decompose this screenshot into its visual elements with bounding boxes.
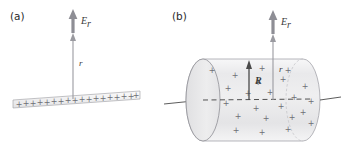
svg-text:+: + [263, 114, 270, 123]
panel-b-field-arrow [269, 10, 278, 34]
svg-text:+: + [259, 64, 266, 73]
svg-text:+: + [253, 104, 260, 113]
svg-text:+: + [44, 98, 51, 107]
svg-text:+: + [209, 66, 216, 75]
svg-text:+: + [289, 113, 296, 122]
svg-text:+: + [79, 95, 86, 104]
svg-text:+: + [58, 97, 65, 106]
svg-text:+: + [245, 89, 252, 98]
svg-text:+: + [259, 128, 266, 137]
line-charge-signs: + + + + + + + + + + + + + + + + + + [16, 91, 140, 108]
svg-text:+: + [93, 94, 100, 103]
figure-canvas: (a) + + + + + + + + + + + + + + + [0, 0, 341, 160]
panel-b: (b) + + + + + + + [164, 10, 341, 141]
svg-text:+: + [285, 125, 292, 134]
svg-text:+: + [223, 99, 230, 108]
panel-a-label: (a) [10, 10, 25, 22]
svg-text:+: + [308, 97, 315, 106]
svg-text:+: + [121, 92, 128, 101]
svg-text:+: + [278, 102, 285, 111]
panel-b-r-label: r [279, 64, 283, 74]
panel-a-field-arrow [69, 9, 78, 33]
svg-text:+: + [23, 99, 30, 108]
panel-b-R-label: R [254, 75, 262, 86]
svg-text:+: + [280, 75, 287, 84]
svg-text:+: + [16, 100, 23, 109]
cylinder-axis-right [320, 97, 341, 100]
svg-text:+: + [291, 93, 298, 102]
svg-text:+: + [51, 97, 58, 106]
physics-figure: (a) + + + + + + + + + + + + + + + [0, 0, 341, 160]
svg-text:+: + [308, 119, 315, 128]
svg-text:+: + [285, 66, 292, 75]
panel-b-label: (b) [172, 10, 187, 22]
panel-a-field-label: Er [80, 15, 91, 29]
svg-text:+: + [267, 88, 274, 97]
svg-text:+: + [302, 82, 309, 91]
svg-text:+: + [233, 126, 240, 135]
svg-text:+: + [30, 99, 37, 108]
svg-text:+: + [300, 108, 307, 117]
svg-text:+: + [225, 84, 232, 93]
svg-text:+: + [114, 93, 121, 102]
svg-text:+: + [65, 96, 72, 105]
svg-text:+: + [86, 95, 93, 104]
svg-text:+: + [232, 71, 239, 80]
panel-a-r-arrow [70, 33, 76, 99]
svg-text:+: + [235, 112, 242, 121]
svg-text:+: + [37, 98, 44, 107]
svg-text:+: + [100, 94, 107, 103]
svg-text:+: + [133, 91, 140, 100]
panel-b-field-label: Er [280, 16, 291, 30]
panel-a-r-label: r [79, 58, 83, 68]
panel-a: (a) + + + + + + + + + + + + + + + [10, 9, 140, 109]
svg-text:+: + [107, 93, 114, 102]
